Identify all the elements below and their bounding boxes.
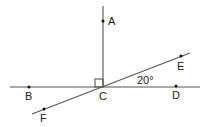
right-angle-mark: [95, 79, 103, 87]
label-e: E: [177, 60, 184, 72]
point-a: [102, 20, 105, 23]
angle-label-ecd: 20°: [137, 74, 154, 86]
point-f: [43, 108, 46, 111]
line-fe: [32, 53, 190, 114]
label-c: C: [99, 90, 107, 102]
label-d: D: [172, 89, 180, 101]
label-f: F: [40, 112, 47, 124]
point-e: [180, 55, 183, 58]
point-b: [28, 86, 31, 89]
label-a: A: [108, 15, 116, 27]
point-d: [175, 85, 178, 88]
label-b: B: [25, 90, 32, 102]
geometry-diagram: A B C D E F 20°: [0, 0, 203, 127]
